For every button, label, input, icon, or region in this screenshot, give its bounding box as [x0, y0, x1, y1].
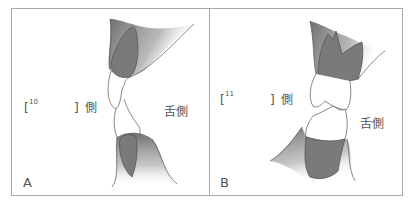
- side-label-b: 側: [281, 94, 293, 106]
- lingual-label-a: 舌側: [164, 106, 188, 118]
- tooth-occlusion-diagram-a: [12, 9, 209, 195]
- panel-a: [ 10 ] 側 舌側 A: [12, 9, 209, 195]
- bracket-close-b: ]: [270, 94, 275, 106]
- bracket-open-a: [: [24, 102, 29, 114]
- bracket-close-a: ]: [74, 102, 79, 114]
- panel-b: [ 11 ] 側 舌側 B: [210, 9, 402, 195]
- panel-letter-a: A: [23, 176, 32, 189]
- blank-number-b: 11: [225, 91, 234, 98]
- panel-letter-b: B: [220, 176, 229, 189]
- tooth-occlusion-diagram-b: [210, 9, 402, 195]
- side-label-a: 側: [85, 102, 97, 114]
- lingual-label-b: 舌側: [360, 118, 384, 130]
- blank-number-a: 10: [29, 99, 38, 106]
- bracket-open-b: [: [220, 94, 225, 106]
